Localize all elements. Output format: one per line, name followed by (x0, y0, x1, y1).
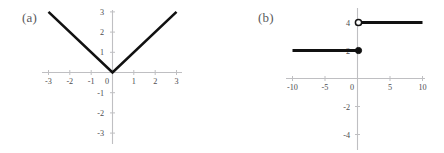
panel-b: (b) -10 -5 0 5 10 (222, 0, 444, 153)
plot-a: -3 -2 -1 0 1 2 3 1 2 3 -1 -2 -3 (0, 0, 222, 153)
xtick-label: -1 (88, 77, 95, 86)
ytick-label: -1 (97, 89, 104, 98)
ytick-label: 2 (100, 28, 104, 37)
xtick-label: 1 (132, 77, 136, 86)
origin-label-a: 0 (105, 77, 109, 86)
closed-point-marker (355, 47, 361, 53)
xtick-label: 5 (388, 83, 392, 92)
ytick-label: -4 (343, 131, 350, 140)
figure-container: (a) -3 (0, 0, 444, 153)
xtick-label: -5 (322, 83, 329, 92)
plot-b: -10 -5 0 5 10 2 4 -2 -4 (222, 0, 444, 153)
xtick-label: -3 (45, 77, 52, 86)
ytick-label: -3 (97, 129, 104, 138)
ytick-label: -2 (97, 109, 104, 118)
xtick-label: -2 (66, 77, 73, 86)
ytick-label: -2 (343, 103, 350, 112)
xtick-label: 10 (418, 83, 426, 92)
origin-label-b: 0 (350, 83, 354, 92)
panel-a: (a) -3 (0, 0, 222, 153)
xtick-label: 3 (174, 77, 178, 86)
xtick-label: 2 (153, 77, 157, 86)
ytick-label: 4 (346, 19, 350, 28)
xtick-label: -10 (287, 83, 298, 92)
ytick-label: 3 (100, 8, 104, 17)
open-point-marker (355, 19, 361, 25)
ytick-label: 1 (100, 48, 104, 57)
